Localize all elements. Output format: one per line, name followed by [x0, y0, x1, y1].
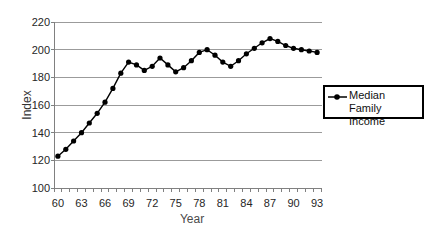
data-point-marker	[252, 46, 257, 51]
data-point-marker	[260, 40, 265, 45]
x-tick-label: 87	[259, 197, 281, 209]
data-point-marker	[205, 47, 210, 52]
data-point-marker	[55, 154, 60, 159]
data-point-marker	[157, 55, 162, 60]
data-point-marker	[291, 46, 296, 51]
x-tick-label: 69	[118, 197, 140, 209]
data-point-marker	[110, 86, 115, 91]
data-point-marker	[228, 64, 233, 69]
x-tick-label: 81	[212, 197, 234, 209]
data-point-marker	[87, 120, 92, 125]
data-point-marker	[283, 43, 288, 48]
y-tick-label: 120	[18, 154, 50, 166]
x-tick-label: 63	[70, 197, 92, 209]
x-tick-label: 90	[283, 197, 305, 209]
data-point-marker	[79, 130, 84, 135]
data-point-marker	[95, 111, 100, 116]
x-tick-label: 66	[94, 197, 116, 209]
y-tick-label: 220	[18, 16, 50, 28]
data-point-marker	[181, 65, 186, 70]
x-tick-label: 78	[188, 197, 210, 209]
data-point-marker	[212, 53, 217, 58]
data-point-marker	[63, 147, 68, 152]
data-point-marker	[142, 68, 147, 73]
data-point-marker	[267, 36, 272, 41]
data-point-marker	[173, 69, 178, 74]
legend-box: Median Family Income	[323, 85, 424, 119]
data-point-marker	[134, 62, 139, 67]
legend-label: Median Family Income	[349, 89, 420, 128]
data-point-marker	[299, 47, 304, 52]
x-tick-label: 93	[306, 197, 328, 209]
x-tick-label: 84	[235, 197, 257, 209]
legend-line-marker-icon	[328, 92, 347, 102]
x-axis-title: Year	[152, 212, 232, 226]
data-point-marker	[150, 64, 155, 69]
data-point-marker	[307, 48, 312, 53]
data-point-marker	[189, 58, 194, 63]
data-point-marker	[102, 100, 107, 105]
x-tick-label: 75	[165, 197, 187, 209]
data-point-marker	[236, 58, 241, 63]
data-point-marker	[220, 60, 225, 65]
data-point-marker	[244, 51, 249, 56]
data-point-marker	[118, 71, 123, 76]
data-point-marker	[315, 50, 320, 55]
x-tick-label: 60	[47, 197, 69, 209]
series-line	[58, 39, 317, 157]
line-chart: 100120140160180200220 606366697275788184…	[0, 0, 440, 240]
y-tick-label: 200	[18, 44, 50, 56]
y-axis-title: Index	[20, 65, 34, 145]
data-point-marker	[197, 50, 202, 55]
data-point-marker	[165, 62, 170, 67]
data-point-marker	[126, 60, 131, 65]
x-tick-label: 72	[141, 197, 163, 209]
data-point-marker	[275, 39, 280, 44]
y-tick-label: 100	[18, 182, 50, 194]
data-point-marker	[71, 138, 76, 143]
